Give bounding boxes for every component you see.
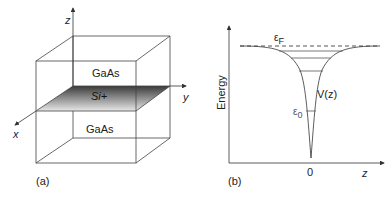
- panel-b-label: (b): [228, 176, 241, 187]
- x-axis: [15, 111, 36, 125]
- energy-axis-label: Energy: [216, 75, 227, 110]
- y-axis-label: y: [183, 92, 189, 103]
- panel-a-label: (a): [36, 176, 49, 187]
- x-axis-label: x: [13, 129, 19, 140]
- dopant-label: Si+: [91, 91, 107, 102]
- z-label-b: z: [362, 168, 368, 179]
- origin-tick: 0: [307, 167, 313, 178]
- fermi-label: εF: [274, 32, 284, 46]
- subbands: [279, 51, 343, 111]
- potential-label: V(z): [317, 89, 337, 100]
- ground-level-label: ε0: [293, 106, 302, 120]
- potential-curve: [240, 46, 380, 158]
- z-axis-label: z: [65, 15, 71, 26]
- bottom-layer-label: GaAs: [86, 124, 114, 135]
- top-layer-label: GaAs: [92, 68, 120, 79]
